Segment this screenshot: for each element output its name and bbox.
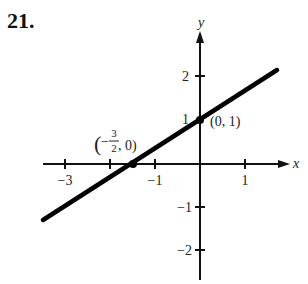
x-axis-label: x <box>292 156 300 171</box>
x-tick-label-1: 1 <box>242 173 249 188</box>
x-axis: x −3 −1 1 <box>43 156 300 188</box>
point-x-intercept <box>129 160 137 168</box>
x-tick-label-neg3: −3 <box>58 173 73 188</box>
x-tick-label-neg1: −1 <box>148 173 163 188</box>
point-y-intercept <box>196 116 204 124</box>
y-tick-label-2: 2 <box>182 69 189 84</box>
y-tick-label-neg2: −2 <box>177 243 192 258</box>
svg-text:, 0): , 0) <box>118 138 137 154</box>
svg-text:3: 3 <box>111 127 117 139</box>
y-axis-label: y <box>196 15 205 30</box>
svg-text:−: − <box>101 134 109 149</box>
x-intercept-label: ( − 3 2 , 0) <box>94 127 137 156</box>
y-axis: y 2 1 −1 −2 <box>177 15 205 280</box>
y-axis-arrow-icon <box>196 31 204 43</box>
svg-text:2: 2 <box>111 142 117 154</box>
plotted-line <box>43 70 277 220</box>
y-intercept-label: (0, 1) <box>210 114 241 130</box>
y-tick-label-neg1: −1 <box>177 200 192 215</box>
coordinate-graph: x −3 −1 1 y 2 1 −1 −2 ( − 3 2 , 0) (0, 1 <box>0 0 308 284</box>
x-axis-arrow-icon <box>278 160 290 168</box>
